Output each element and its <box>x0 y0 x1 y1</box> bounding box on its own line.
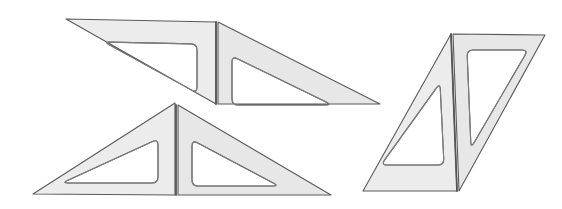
illustration-canvas: Drafting set squares illustration <box>0 0 562 209</box>
scene-svg: Drafting set squares illustration <box>0 0 562 209</box>
